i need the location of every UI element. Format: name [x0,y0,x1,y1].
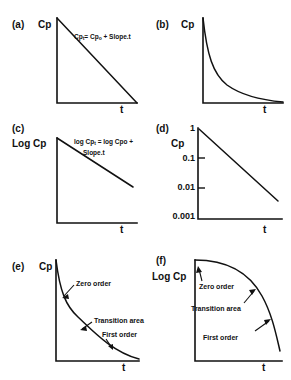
panel-a-line-series [57,18,137,103]
panel-f-tag: (f) [156,255,166,266]
panel-e-tag: (e) [12,261,24,272]
panel-c-eq-sub: t [94,140,96,146]
panel-d-y-axis-label: Cp [171,138,184,149]
panel-c-equation: log Cpt = log Cpo + Slope.t [74,137,133,157]
panel-d: (d) Cp 1 0.1 0.01 0.001 t [150,120,291,240]
panel-b-decay-curve [203,18,283,102]
panel-e-label-first-order: First order [102,331,137,338]
panel-f-label-transition-area: Transition area [191,305,241,312]
panel-a-eq-mid-sub: o [99,35,102,41]
panel-c-equation-line2: Slope.t [74,148,133,157]
panel-a: (a) Cp t Cpt= Cpo + Slope.t [0,0,150,120]
panel-e-mixed-order-curve [56,260,139,359]
panel-f-arrowhead-transition [249,289,256,295]
panel-d-tick-0-01: 0.01 [155,182,195,192]
panel-c-x-axis-label: t [120,224,123,235]
panel-a-eq-mid: = Cp [84,33,98,40]
panel-f: (f) Log Cp t Zero order Transition area … [150,248,291,380]
panel-c-tag: (c) [12,123,24,134]
panel-f-arrowhead-zero-order [196,266,202,273]
panel-f-x-axis-label: t [262,362,265,373]
panel-e-arrow-zero-order [64,285,74,296]
panel-d-x-axis-label: t [263,224,266,235]
panel-b-plot [150,0,291,120]
panel-c-eq-lead: log Cp [74,138,94,145]
panel-a-eq-tail: + Slope.t [104,33,131,40]
panel-a-plot [0,0,150,120]
panel-f-label-first-order: First order [203,334,238,341]
panel-c-y-axis-label: Log Cp [12,138,46,149]
panel-b-tag: (b) [156,19,169,30]
panel-e: (e) Cp t Zero order Transition area Firs… [0,248,150,380]
panel-b-y-axis-label: Cp [181,19,194,30]
panel-f-y-axis-label: Log Cp [152,271,186,282]
panel-d-axes [198,128,282,219]
panel-b-axes [203,18,283,103]
panel-b-x-axis-label: t [263,104,266,115]
panel-e-arrowhead-transition [80,326,87,331]
panel-a-x-axis-label: t [120,104,123,115]
panel-c-eq-tail: = log Cpo + [98,138,133,145]
panel-e-axes [56,260,139,361]
panel-e-label-transition-area: Transition area [94,317,144,324]
panel-a-eq-lead: Cp [74,33,83,40]
pharmacokinetic-figure: (a) Cp t Cpt= Cpo + Slope.t (b) Cp t (c)… [0,0,291,380]
panel-e-y-axis-label: Cp [39,261,52,272]
panel-d-line-series [199,129,278,201]
panel-d-tick-1: 1 [160,123,195,133]
panel-d-tick-0-1: 0.1 [160,153,195,163]
panel-c: (c) Log Cp t log Cpt = log Cpo + Slope.t [0,120,150,240]
panel-c-equation-line1: log Cpt = log Cpo + [74,137,133,148]
panel-e-label-zero-order: Zero order [76,280,111,287]
panel-a-y-axis-label: Cp [38,19,51,30]
panel-f-plot [150,248,291,380]
panel-a-equation: Cpt= Cpo + Slope.t [74,32,131,43]
panel-d-tick-0-001: 0.001 [150,211,195,221]
panel-f-label-zero-order: Zero order [199,283,234,290]
panel-a-tag: (a) [12,19,24,30]
panel-b: (b) Cp t [150,0,291,120]
panel-e-x-axis-label: t [122,362,125,373]
